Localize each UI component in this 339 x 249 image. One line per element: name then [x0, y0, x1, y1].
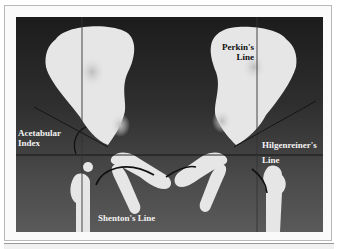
hilgenreiners-line-label-1: Hilgenreiner's — [262, 140, 317, 150]
hip-diagram: Perkin's Line Acetabular Index Hilgenrei… — [16, 17, 323, 232]
left-femoral-head — [83, 162, 93, 172]
right-femur — [263, 165, 286, 232]
hilgenreiners-line-label-2: Line — [262, 155, 317, 165]
shentons-line-label: Shenton's Line — [98, 213, 155, 223]
acetabular-index-label-1: Acetabular — [18, 128, 61, 138]
perkins-line-label-2: Line — [222, 52, 254, 62]
left-femur — [70, 174, 90, 232]
acetabular-index-label-2: Index — [18, 138, 61, 148]
perkins-line-label: Perkin's Line — [222, 42, 254, 62]
hip-illustration — [16, 17, 323, 232]
acetabular-index-arc — [74, 127, 86, 154]
acetabular-index-label: Acetabular Index — [18, 128, 61, 148]
figure-bottom-edge — [4, 243, 334, 249]
perkins-line-label-1: Perkin's — [222, 42, 254, 52]
hilgenreiners-line-label: Hilgenreiner's Line — [262, 140, 317, 165]
